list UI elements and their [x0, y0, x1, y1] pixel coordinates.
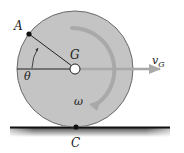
label-velocity-subscript: G — [158, 60, 165, 69]
contact-point-c-dot — [73, 124, 78, 129]
label-g: G — [70, 48, 80, 62]
label-a: A — [13, 19, 23, 33]
label-c: C — [71, 136, 80, 150]
label-theta: θ — [24, 70, 31, 83]
label-omega: ω — [74, 95, 83, 108]
ground — [10, 128, 170, 138]
point-a-dot — [26, 31, 31, 36]
center-point-g — [70, 64, 80, 74]
label-velocity: vG — [152, 54, 165, 69]
rolling-disk-diagram: A G θ vG ω C — [0, 0, 184, 153]
